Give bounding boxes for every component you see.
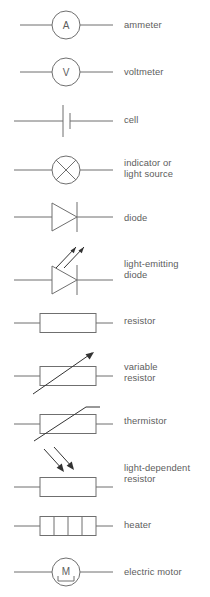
circuit-symbol-key: A ammeter V voltmeter [0, 0, 210, 597]
symbol-row-indicator: indicator or light source [0, 148, 210, 194]
motor-symbol: M [0, 551, 120, 595]
heater-symbol [0, 508, 120, 544]
ammeter-glyph: A [63, 20, 70, 31]
voltmeter-symbol: V [0, 51, 120, 95]
cell-symbol [0, 99, 120, 143]
symbol-label-voltmeter: voltmeter [124, 66, 163, 77]
symbol-label-variable-resistor: variable resistor [124, 361, 158, 384]
symbol-row-ammeter: A ammeter [0, 4, 210, 48]
symbol-row-cell: cell [0, 99, 210, 143]
symbol-row-resistor: resistor [0, 305, 210, 341]
symbol-label-heater: heater [124, 519, 151, 530]
variable-resistor-arrowhead [86, 352, 95, 360]
symbol-label-ammeter: ammeter [124, 19, 162, 30]
symbol-row-thermistor: thermistor [0, 401, 210, 445]
symbol-row-diode: diode [0, 197, 210, 237]
symbol-label-motor: electric motor [124, 566, 182, 577]
symbol-row-ldr: light-dependent resistor [0, 443, 210, 503]
lamp-symbol [0, 148, 120, 194]
symbol-row-led: light-emitting diode [0, 240, 210, 300]
motor-glyph: M [62, 566, 70, 577]
symbol-row-heater: heater [0, 508, 210, 544]
symbol-label-cell: cell [124, 114, 138, 125]
symbol-row-variable-resistor: variable resistor [0, 348, 210, 398]
symbol-row-motor: M electric motor [0, 551, 210, 595]
symbol-label-led: light-emitting diode [124, 258, 179, 281]
symbol-row-voltmeter: V voltmeter [0, 51, 210, 95]
symbol-label-thermistor: thermistor [124, 415, 167, 426]
variable-resistor-symbol [0, 348, 120, 398]
ammeter-symbol: A [0, 4, 120, 48]
thermistor-symbol [0, 401, 120, 445]
voltmeter-glyph: V [63, 67, 70, 78]
variable-resistor-arrow [33, 353, 92, 394]
symbol-label-ldr: light-dependent resistor [124, 462, 190, 485]
ldr-symbol [0, 443, 120, 503]
symbol-label-indicator: indicator or light source [124, 157, 173, 180]
thermistor-hook [34, 407, 100, 441]
symbol-label-resistor: resistor [124, 315, 156, 326]
led-symbol [0, 240, 120, 300]
diode-symbol [0, 197, 120, 237]
resistor-symbol [0, 305, 120, 341]
symbol-label-diode: diode [124, 212, 147, 223]
